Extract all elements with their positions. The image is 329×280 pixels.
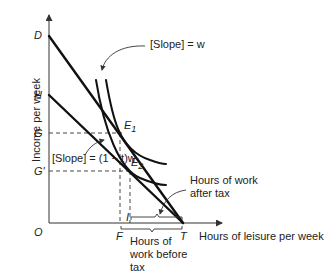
before-tax-annotation-line3: tax bbox=[130, 261, 145, 273]
pre-tax-budget-line bbox=[49, 36, 183, 223]
point-d-label: D bbox=[34, 29, 42, 41]
point-g-prime-label: G' bbox=[34, 165, 46, 177]
labor-supply-diagram: Income per week D H G G' O F I T Hours o… bbox=[0, 0, 329, 280]
e1-label: E1 bbox=[124, 119, 136, 134]
slope-w-arrow bbox=[102, 46, 145, 70]
after-tax-annotation-line1: Hours of work bbox=[190, 174, 258, 186]
point-h-label: H bbox=[34, 89, 42, 101]
point-g-label: G bbox=[34, 127, 43, 139]
after-tax-annotation-line2: after tax bbox=[190, 187, 230, 199]
x-axis-label: Hours of leisure per week bbox=[199, 230, 324, 242]
point-i-label: I bbox=[126, 211, 129, 223]
slope-tax-annotation: [Slope] = (1 − t)w bbox=[52, 152, 136, 164]
slope-w-annotation: [Slope] = w bbox=[150, 38, 205, 50]
before-tax-annotation-line2: work before bbox=[129, 248, 187, 260]
point-t-label: T bbox=[180, 230, 188, 242]
before-tax-annotation-line1: Hours of bbox=[130, 235, 173, 247]
before-tax-brace bbox=[121, 226, 182, 232]
origin-label: O bbox=[34, 226, 43, 238]
point-f-label: F bbox=[116, 230, 124, 242]
